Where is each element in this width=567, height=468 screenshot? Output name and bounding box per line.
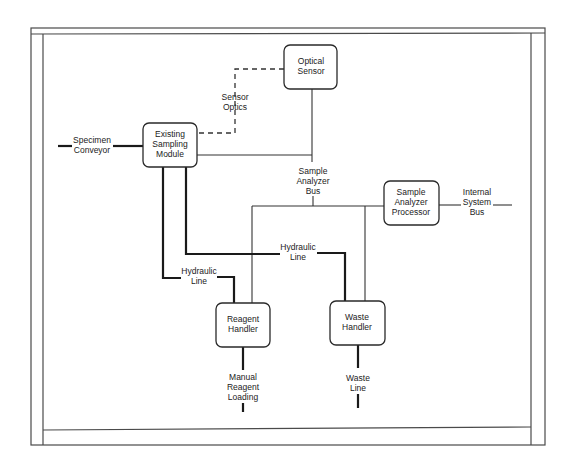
sample-analyzer-bus-label-line1: Sample (299, 166, 328, 176)
node-sampling-module: Existing Sampling Module (143, 123, 197, 167)
sampling-module-label-line3: Module (156, 149, 184, 159)
internal-system-bus-label-line3: Bus (470, 207, 485, 217)
manual-reagent-loading-label-line2: Reagent (227, 382, 260, 392)
sensor-optics-label-line2: Optics (223, 102, 247, 112)
sampling-module-label-line2: Sampling (152, 139, 188, 149)
internal-system-bus-label-line2: System (463, 197, 491, 207)
specimen-conveyor-label-line1: Specimen (73, 135, 111, 145)
reagent-handler-label-line2: Handler (228, 324, 258, 334)
connectors (58, 69, 512, 412)
hydraulic-line-1-label-line2: Line (191, 276, 207, 286)
edge-labels: Sensor Optics Specimen Conveyor Sample A… (73, 92, 491, 402)
reagent-handler-label-line1: Reagent (227, 314, 260, 324)
sensor-optics-label-line1: Sensor (222, 92, 249, 102)
internal-system-bus-label-line1: Internal (463, 187, 491, 197)
hydraulic-line-2-lower (317, 253, 345, 301)
manual-reagent-loading-label-line1: Manual (229, 372, 257, 382)
sampling-module-label-line1: Existing (155, 129, 185, 139)
processor-label-line3: Processor (392, 207, 430, 217)
system-diagram: Optical Sensor Existing Sampling Module … (0, 0, 567, 468)
frame-top-inner-line (31, 33, 545, 34)
specimen-conveyor-label-line2: Conveyor (74, 145, 111, 155)
waste-line-label-line2: Line (350, 383, 366, 393)
node-reagent-handler: Reagent Handler (216, 303, 270, 347)
sample-analyzer-bus-label-line2: Analyzer (296, 176, 329, 186)
waste-handler-label-line2: Handler (342, 322, 372, 332)
outer-frame (31, 28, 545, 445)
sample-analyzer-bus-label-line3: Bus (306, 186, 321, 196)
hydraulic-line-1-upper (163, 167, 181, 278)
hydraulic-line-1-lower (217, 277, 234, 303)
optical-sensor-label-line2: Sensor (298, 66, 325, 76)
waste-line-label-line1: Waste (346, 373, 370, 383)
hydraulic-line-2-label-line2: Line (290, 252, 306, 262)
hydraulic-line-2-label-line1: Hydraulic (280, 242, 316, 252)
hydraulic-line-1-label-line1: Hydraulic (181, 266, 217, 276)
frame-bottom-inner-line (43, 427, 531, 430)
hydraulic-line-2-upper (186, 167, 280, 254)
waste-handler-label-line1: Waste (345, 312, 369, 322)
processor-label-line1: Sample (397, 187, 426, 197)
processor-label-line2: Analyzer (394, 197, 427, 207)
manual-reagent-loading-label-line3: Loading (228, 392, 259, 402)
optical-sensor-label-line1: Optical (298, 56, 325, 66)
node-processor: Sample Analyzer Processor (384, 181, 439, 225)
node-optical-sensor: Optical Sensor (284, 45, 337, 89)
node-waste-handler: Waste Handler (330, 301, 385, 345)
page-frame (31, 28, 545, 445)
